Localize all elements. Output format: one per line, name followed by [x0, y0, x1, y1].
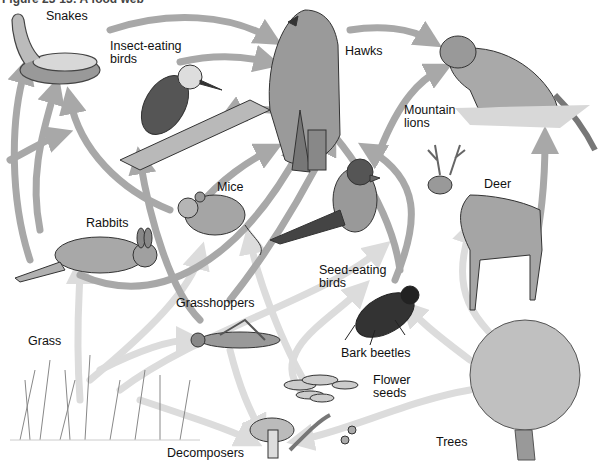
label-insect-eating-birds: Insect-eating birds: [110, 40, 182, 66]
label-hawks: Hawks: [345, 45, 383, 58]
label-seed-eating-birds: Seed-eating birds: [319, 264, 386, 290]
label-grasshoppers: Grasshoppers: [176, 297, 255, 310]
mountain-lion-illustration: [440, 36, 595, 150]
tree-illustration: [470, 320, 580, 460]
food-web-figure: Figure 23-13: A food web: [0, 0, 605, 472]
label-trees: Trees: [436, 436, 468, 449]
label-flower-seeds: Flower seeds: [373, 374, 411, 400]
label-mice: Mice: [217, 181, 243, 194]
deer-illustration: [428, 145, 542, 310]
snake-illustration: [12, 14, 100, 84]
label-grass: Grass: [28, 335, 61, 348]
label-snakes: Snakes: [46, 10, 88, 23]
decomposers-illustration: [250, 415, 356, 458]
label-decomposers: Decomposers: [167, 447, 244, 460]
hawk-illustration: [269, 10, 340, 172]
label-rabbits: Rabbits: [86, 217, 128, 230]
food-web-drawing: [0, 0, 605, 472]
insect-eating-bird-illustration: [120, 65, 270, 170]
label-mountain-lions: Mountain lions: [404, 104, 455, 130]
label-bark-beetles: Bark beetles: [341, 347, 410, 360]
label-deer: Deer: [484, 178, 511, 191]
